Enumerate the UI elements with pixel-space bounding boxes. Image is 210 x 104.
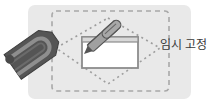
temporary-pin-illustration [0,0,210,104]
temporary-pin-label: 임시 고정 [160,35,206,52]
